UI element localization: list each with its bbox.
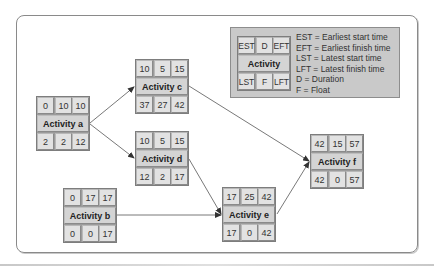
lft-cell: 12 bbox=[72, 133, 89, 150]
activity-label: Activity c bbox=[136, 78, 188, 95]
eft-cell: 15 bbox=[171, 132, 188, 149]
duration-cell: 5 bbox=[154, 60, 171, 77]
lft-cell: 17 bbox=[171, 168, 188, 185]
lst-cell: 42 bbox=[311, 171, 328, 188]
est-cell: 17 bbox=[223, 188, 240, 205]
est-cell: 10 bbox=[136, 132, 153, 149]
activity-label: Activity b bbox=[64, 207, 116, 224]
legend-line-est: EST = Earliest start time bbox=[296, 32, 391, 43]
lst-cell: 37 bbox=[136, 96, 153, 113]
legend-lft-cell: LFT bbox=[273, 73, 290, 90]
duration-cell: 17 bbox=[82, 189, 99, 206]
activity-label: Activity d bbox=[136, 150, 188, 167]
activity-label: Activity f bbox=[311, 153, 363, 170]
node-activity-b: 0 17 17 Activity b 0 0 17 bbox=[63, 188, 117, 243]
est-cell: 10 bbox=[136, 60, 153, 77]
legend-duration-cell: D bbox=[256, 37, 273, 54]
edge-a-c bbox=[90, 87, 134, 123]
eft-cell: 15 bbox=[171, 60, 188, 77]
node-activity-a: 0 10 10 Activity a 2 2 12 bbox=[36, 96, 90, 151]
legend-line-duration: D = Duration bbox=[296, 74, 391, 85]
legend-activity-label: Activity bbox=[238, 55, 290, 72]
est-cell: 0 bbox=[37, 97, 54, 114]
legend-definitions: EST = Earliest start time EFT = Earliest… bbox=[296, 32, 391, 96]
lst-cell: 12 bbox=[136, 168, 153, 185]
legend-float-cell: F bbox=[256, 73, 273, 90]
lst-cell: 0 bbox=[64, 225, 81, 242]
legend-line-lft: LFT = Latest finish time bbox=[296, 64, 391, 75]
lft-cell: 17 bbox=[99, 225, 116, 242]
eft-cell: 57 bbox=[346, 135, 363, 152]
eft-cell: 17 bbox=[99, 189, 116, 206]
lft-cell: 42 bbox=[258, 224, 275, 241]
legend-line-lst: LST = Latest start time bbox=[296, 53, 391, 64]
legend-lst-cell: LST bbox=[238, 73, 255, 90]
float-cell: 0 bbox=[241, 224, 258, 241]
node-activity-d: 10 5 15 Activity d 12 2 17 bbox=[135, 131, 189, 186]
activity-label: Activity e bbox=[223, 206, 275, 223]
edge-e-f bbox=[277, 162, 309, 214]
duration-cell: 25 bbox=[241, 188, 258, 205]
lst-cell: 2 bbox=[37, 133, 54, 150]
est-cell: 0 bbox=[64, 189, 81, 206]
lft-cell: 57 bbox=[346, 171, 363, 188]
float-cell: 0 bbox=[329, 171, 346, 188]
duration-cell: 5 bbox=[154, 132, 171, 149]
lft-cell: 42 bbox=[171, 96, 188, 113]
legend-line-float: F = Float bbox=[296, 85, 391, 96]
est-cell: 42 bbox=[311, 135, 328, 152]
eft-cell: 42 bbox=[258, 188, 275, 205]
duration-cell: 10 bbox=[55, 97, 72, 114]
float-cell: 2 bbox=[154, 168, 171, 185]
edge-a-d bbox=[90, 124, 134, 158]
legend-node-key: EST D EFT Activity LST F LFT bbox=[237, 36, 291, 91]
duration-cell: 15 bbox=[329, 135, 346, 152]
node-activity-c: 10 5 15 Activity c 37 27 42 bbox=[135, 59, 189, 114]
legend-line-eft: EFT = Earliest finish time bbox=[296, 43, 391, 54]
legend-eft-cell: EFT bbox=[273, 37, 290, 54]
legend-box: EST D EFT Activity LST F LFT EST = Earli… bbox=[230, 27, 400, 98]
edge-d-e bbox=[189, 159, 221, 214]
node-activity-e: 17 25 42 Activity e 17 0 42 bbox=[222, 187, 276, 242]
node-activity-f: 42 15 57 Activity f 42 0 57 bbox=[310, 134, 364, 189]
float-cell: 27 bbox=[154, 96, 171, 113]
float-cell: 0 bbox=[82, 225, 99, 242]
legend-est-cell: EST bbox=[238, 37, 255, 54]
lst-cell: 17 bbox=[223, 224, 240, 241]
eft-cell: 10 bbox=[72, 97, 89, 114]
float-cell: 2 bbox=[55, 133, 72, 150]
activity-label: Activity a bbox=[37, 115, 89, 132]
